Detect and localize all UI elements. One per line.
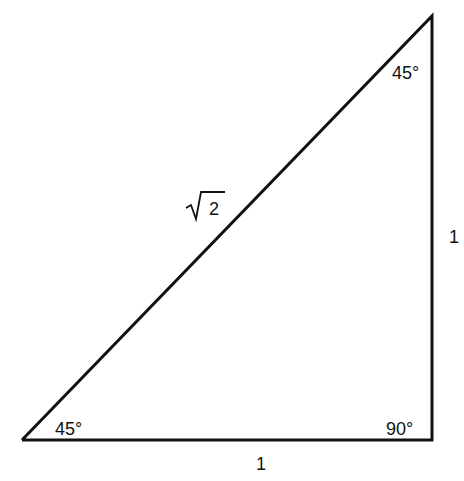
angle-bottom-left: 45° [55,419,82,439]
side-right-label: 1 [449,227,459,247]
sqrt-icon [186,192,225,219]
triangle-diagram: 45° 45° 90° 1 1 2 [0,0,464,481]
triangle-outline [22,16,432,440]
angle-top-right: 45° [392,63,419,83]
angle-bottom-right: 90° [386,419,413,439]
hypotenuse-radicand: 2 [209,199,219,219]
side-bottom-label: 1 [256,454,266,474]
hypotenuse-label: 2 [186,192,225,219]
